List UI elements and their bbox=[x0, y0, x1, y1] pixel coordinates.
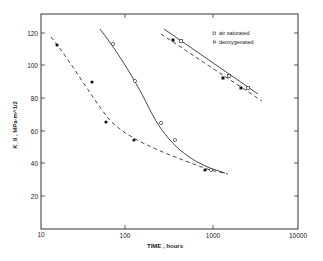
y-tick-label: 40 bbox=[31, 160, 39, 167]
series-deoxygenated bbox=[172, 39, 243, 90]
y-axis-ticks bbox=[41, 14, 298, 229]
y-axis-labels: 120 100 80 60 40 20 bbox=[27, 30, 38, 200]
y-tick-label: 100 bbox=[27, 62, 38, 69]
y-tick-label: 120 bbox=[27, 30, 38, 37]
y-tick-label: 20 bbox=[31, 193, 39, 200]
curve-filled-circles bbox=[51, 37, 228, 174]
y-tick-label: 60 bbox=[31, 128, 39, 135]
y-tick-label: 80 bbox=[31, 95, 39, 102]
series-open-circles bbox=[111, 42, 212, 171]
series-filled-circles bbox=[55, 43, 206, 171]
legend-label: air saturated bbox=[219, 30, 250, 36]
legend-marker-deoxygenated bbox=[213, 41, 215, 43]
x-tick-label: 10 bbox=[37, 231, 45, 238]
curves bbox=[51, 29, 262, 174]
x-axis-title: TIME , hours bbox=[147, 243, 184, 249]
x-tick-label: 1000 bbox=[206, 232, 221, 239]
chart: 120 100 80 60 40 20 10 100 1000 10000 TI… bbox=[0, 0, 323, 261]
x-axis-labels: 10 100 1000 10000 bbox=[37, 231, 307, 239]
plot-frame bbox=[41, 14, 298, 229]
legend-label: deoxygenated bbox=[219, 39, 254, 45]
legend: air saturated deoxygenated bbox=[213, 30, 254, 45]
legend-marker-air-saturated bbox=[213, 32, 216, 35]
y-axis-title: K_II , MPa·m^1/2 bbox=[12, 101, 18, 149]
x-tick-label: 100 bbox=[120, 232, 131, 239]
x-tick-label: 10000 bbox=[289, 232, 307, 239]
